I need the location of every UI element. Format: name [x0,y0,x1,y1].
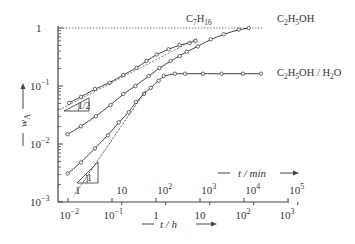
data-point [158,66,161,69]
data-point [237,28,240,31]
data-point [117,121,120,124]
label-c2h5oh: C2H5OH [277,13,315,27]
data-point [222,33,225,36]
svg-text:102: 102 [157,182,172,196]
svg-text:103: 103 [280,207,295,221]
data-point [178,54,181,57]
svg-text:102: 102 [236,207,251,221]
data-point [149,86,152,89]
data-point [183,72,186,75]
data-point [194,39,197,42]
data-point [79,125,82,128]
data-point [173,72,176,75]
data-point [167,48,170,51]
svg-text:1: 1 [36,22,42,34]
x-tick-labels-minutes: 110102103104105 [75,182,304,196]
svg-text:t / h: t / h [160,218,178,230]
y-axis-title: wA [17,83,32,146]
data-point [66,133,69,136]
svg-text:105: 105 [289,182,304,196]
svg-text:10: 10 [195,209,207,221]
label-c7h16: C7H16 [186,13,212,27]
data-point [247,26,250,29]
data-point [79,161,82,164]
data-point [196,45,199,48]
arrow-right-icon [293,171,299,176]
data-point [155,53,158,56]
data-point [93,87,96,90]
svg-text:1/2: 1/2 [78,101,90,111]
data-point [209,38,212,41]
data-point [122,92,125,95]
svg-text:10−2: 10−2 [30,136,50,150]
data-point [67,101,70,104]
data-point [134,84,137,87]
arrow-right-icon [211,222,217,227]
svg-text:103: 103 [201,182,216,196]
data-point [185,50,188,53]
arrow-up-icon [21,83,26,89]
svg-text:t / min: t / min [238,167,267,179]
data-point [93,147,96,150]
data-series [66,26,263,175]
data-point [178,43,181,46]
data-point [145,59,148,62]
svg-text:wA: wA [17,114,32,127]
data-point [147,74,150,77]
chart-plot: 10−310−210−1110−210−11101021031101021031… [0,0,355,244]
svg-text:10−1: 10−1 [104,207,124,221]
svg-text:10−1: 10−1 [30,78,50,92]
data-point [201,72,204,75]
data-point [94,115,97,118]
data-point [157,79,160,82]
data-point [220,72,223,75]
slope-annotations: 1/21 [62,38,197,197]
data-point [106,134,109,137]
slope-triangle-one: 1 [77,162,98,183]
data-point [66,172,69,175]
data-point [169,59,172,62]
svg-text:10−3: 10−3 [30,194,50,208]
y-tick-labels: 10−310−210−11 [30,22,50,208]
series-c7h16 [67,39,197,104]
svg-text:10: 10 [116,184,128,196]
data-point [259,72,262,75]
label-c2h5oh-h2o: C2H5OH / H2O [277,67,342,81]
svg-text:104: 104 [245,182,260,196]
data-point [127,111,130,114]
data-point [241,72,244,75]
axes: 10−310−210−1110−210−11101021031101021031… [30,22,304,221]
svg-text:1: 1 [87,172,92,183]
x-axis-title-minutes: t / min [218,167,299,179]
data-point [162,74,165,77]
svg-text:1: 1 [153,209,159,221]
data-point [109,103,112,106]
svg-text:10−2: 10−2 [60,207,80,221]
